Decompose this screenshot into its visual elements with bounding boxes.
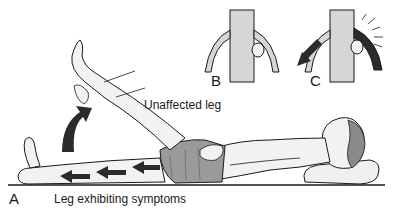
straight-leg-raise-diagram: A Leg exhibiting symptoms Unaffected leg… <box>0 0 394 210</box>
panel-c-letter: C <box>310 72 321 89</box>
disc-icon <box>252 43 264 57</box>
raise-arrow-icon <box>62 106 92 152</box>
raised-leg-label: Unaffected leg <box>144 98 221 112</box>
panel-b-letter: B <box>211 72 221 89</box>
panel-a-letter: A <box>9 190 19 207</box>
lower-foot <box>24 137 40 168</box>
panel-a-caption: Leg exhibiting symptoms <box>54 192 186 206</box>
disc-icon <box>351 40 363 54</box>
examiner-hand <box>74 85 89 104</box>
